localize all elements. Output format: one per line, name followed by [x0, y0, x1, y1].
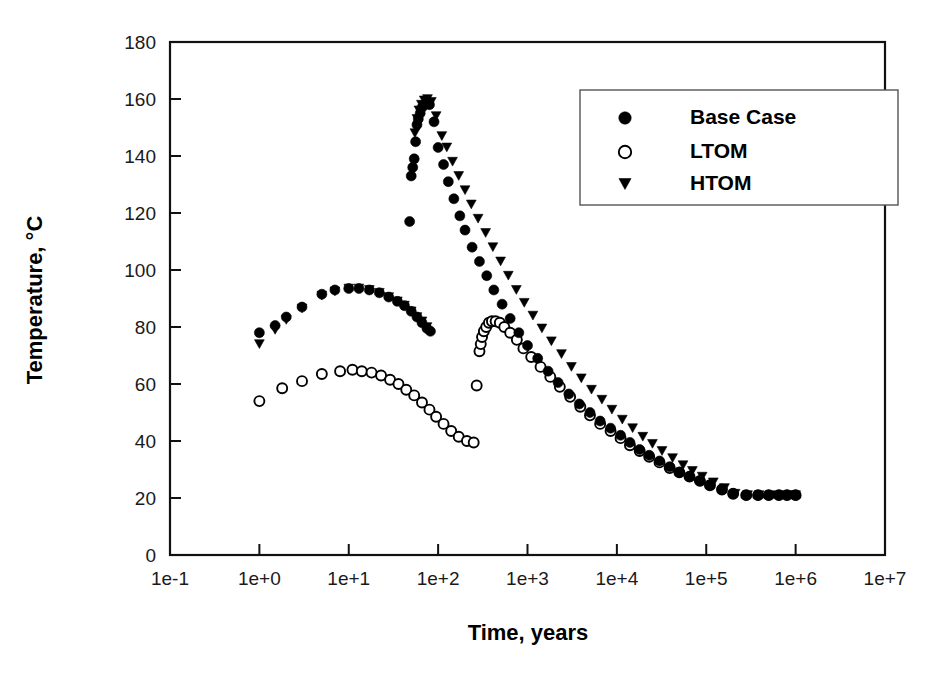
marker-filled-triangle-down [511, 286, 521, 295]
x-tick-label: 1e+6 [774, 568, 817, 589]
x-tick-label: 1e+1 [327, 568, 370, 589]
marker-filled-circle [619, 112, 631, 124]
marker-filled-triangle-down [528, 311, 538, 320]
marker-filled-circle [625, 437, 635, 447]
marker-filled-triangle-down [597, 395, 607, 404]
marker-filled-triangle-down [481, 229, 491, 238]
y-tick-label: 140 [124, 146, 156, 167]
marker-filled-circle [467, 242, 477, 252]
marker-filled-circle [635, 445, 645, 455]
marker-open-circle [335, 366, 345, 376]
y-tick-label: 20 [135, 488, 156, 509]
marker-open-circle [472, 380, 482, 390]
x-tick-label: 1e+7 [864, 568, 907, 589]
legend-item-label: Base Case [690, 105, 796, 128]
marker-open-circle [297, 376, 307, 386]
marker-open-circle [277, 383, 287, 393]
marker-filled-triangle-down [648, 439, 658, 448]
y-tick-label: 160 [124, 89, 156, 110]
marker-filled-circle [595, 416, 605, 426]
marker-filled-circle [449, 194, 459, 204]
marker-filled-circle [405, 217, 415, 227]
y-tick-label: 0 [145, 545, 156, 566]
marker-filled-triangle-down [503, 271, 513, 280]
marker-filled-triangle-down [255, 340, 265, 349]
marker-filled-triangle-down [657, 447, 667, 456]
marker-open-circle [347, 365, 357, 375]
marker-filled-circle [439, 160, 449, 170]
marker-filled-triangle-down [519, 298, 529, 307]
marker-filled-circle [616, 430, 626, 440]
marker-filled-triangle-down [466, 200, 476, 209]
marker-filled-circle [585, 408, 595, 418]
marker-filled-circle [474, 256, 484, 266]
marker-filled-triangle-down [437, 132, 447, 141]
marker-filled-triangle-down [410, 129, 420, 138]
chart-page: 1e-11e+01e+11e+21e+31e+41e+51e+61e+7 020… [0, 0, 932, 682]
marker-filled-circle [655, 456, 665, 466]
x-tick-label: 1e-1 [151, 568, 189, 589]
marker-filled-triangle-down [557, 350, 567, 359]
legend-item-label: HTOM [690, 171, 751, 194]
marker-filled-circle [455, 211, 465, 221]
marker-filled-circle [497, 299, 507, 309]
marker-filled-circle [543, 366, 553, 376]
x-axis-ticks [170, 544, 885, 555]
marker-open-circle [469, 437, 479, 447]
marker-open-circle [367, 368, 377, 378]
y-tick-label: 60 [135, 374, 156, 395]
y-tick-label: 100 [124, 260, 156, 281]
x-tick-label: 1e+3 [506, 568, 549, 589]
marker-filled-triangle-down [567, 363, 577, 372]
marker-filled-triangle-down [454, 172, 464, 181]
marker-filled-circle [574, 399, 584, 409]
marker-filled-triangle-down [617, 415, 627, 424]
y-tick-label: 120 [124, 203, 156, 224]
marker-filled-triangle-down [576, 374, 586, 383]
marker-filled-circle [482, 271, 492, 281]
x-tick-label: 1e+2 [417, 568, 460, 589]
marker-filled-circle [644, 450, 654, 460]
marker-filled-triangle-down [496, 257, 506, 266]
marker-open-circle [619, 146, 631, 158]
marker-filled-circle [564, 389, 574, 399]
marker-filled-triangle-down [668, 454, 678, 463]
marker-filled-circle [460, 225, 470, 235]
marker-filled-triangle-down [473, 214, 483, 223]
y-tick-label: 180 [124, 32, 156, 53]
marker-filled-circle [553, 378, 563, 388]
y-tick-label: 80 [135, 317, 156, 338]
x-tick-label: 1e+4 [595, 568, 638, 589]
marker-filled-circle [433, 142, 443, 152]
legend-item-label: LTOM [690, 139, 748, 162]
marker-filled-circle [489, 285, 499, 295]
marker-filled-triangle-down [607, 405, 617, 414]
y-axis-ticks [170, 42, 181, 555]
marker-open-circle [357, 366, 367, 376]
temperature-vs-time-chart: 1e-11e+01e+11e+21e+31e+41e+51e+61e+7 020… [0, 0, 932, 682]
marker-filled-triangle-down [547, 337, 557, 346]
marker-filled-circle [505, 313, 515, 323]
x-tick-label: 1e+0 [238, 568, 281, 589]
marker-filled-circle [533, 353, 543, 363]
marker-filled-triangle-down [488, 243, 498, 252]
x-axis-title: Time, years [468, 620, 589, 645]
marker-filled-triangle-down [587, 385, 597, 394]
marker-filled-triangle-down [448, 157, 458, 166]
marker-filled-triangle-down [460, 186, 470, 195]
marker-open-circle [317, 369, 327, 379]
marker-filled-circle [409, 154, 419, 164]
marker-filled-circle [665, 462, 675, 472]
marker-filled-circle [514, 328, 524, 338]
marker-filled-circle [254, 328, 264, 338]
x-axis-tick-labels: 1e-11e+01e+11e+21e+31e+41e+51e+61e+7 [151, 568, 906, 589]
x-tick-label: 1e+5 [685, 568, 728, 589]
marker-filled-triangle-down [537, 324, 547, 333]
y-axis-tick-labels: 020406080100120140160180 [124, 32, 156, 566]
marker-filled-circle [443, 177, 453, 187]
marker-filled-triangle-down [628, 424, 638, 433]
chart-legend: Base CaseLTOMHTOM [580, 90, 898, 205]
marker-filled-triangle-down [638, 432, 648, 441]
y-tick-label: 40 [135, 431, 156, 452]
marker-filled-circle [411, 137, 421, 147]
